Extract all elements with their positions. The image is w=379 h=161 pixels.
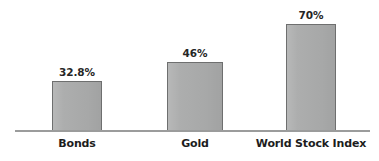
x-axis-label-bonds: Bonds xyxy=(58,137,95,150)
bar-value-label-bonds: 32.8% xyxy=(59,66,95,78)
bar-value-label-world-stock-index: 70% xyxy=(299,9,324,21)
bar-value-label-gold: 46% xyxy=(183,47,208,59)
bar-world-stock-index[interactable] xyxy=(286,24,336,131)
x-axis-label-world-stock-index: World Stock Index xyxy=(256,137,366,150)
bar-group-gold: 46% xyxy=(167,0,223,131)
x-axis-label-gold: Gold xyxy=(181,137,209,150)
bar-group-bonds: 32.8% xyxy=(52,0,102,131)
bar-chart: 32.8% 46% 70% Bonds Gold World Stock Ind… xyxy=(0,0,379,161)
plot-area: 32.8% 46% 70% xyxy=(0,0,379,131)
x-axis-baseline xyxy=(15,130,370,132)
bar-gold[interactable] xyxy=(167,62,223,131)
bar-bonds[interactable] xyxy=(52,81,102,131)
x-axis-category-labels: Bonds Gold World Stock Index xyxy=(0,134,379,161)
bar-group-world-stock-index: 70% xyxy=(286,0,336,131)
